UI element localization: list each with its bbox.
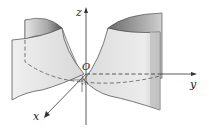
diagram-graphic xyxy=(0,0,209,134)
z-axis-label: z xyxy=(76,7,82,18)
surface-front-right xyxy=(84,28,160,110)
z-axis-arrow xyxy=(84,7,88,13)
saddle-surface-diagram: z O y x xyxy=(0,0,209,134)
origin-label: O xyxy=(82,62,90,72)
surface-right-edge xyxy=(150,32,160,110)
surface-front-left xyxy=(12,28,84,100)
y-axis-arrow xyxy=(191,72,197,76)
x-axis-label: x xyxy=(33,111,39,122)
y-axis-label: y xyxy=(190,79,196,90)
